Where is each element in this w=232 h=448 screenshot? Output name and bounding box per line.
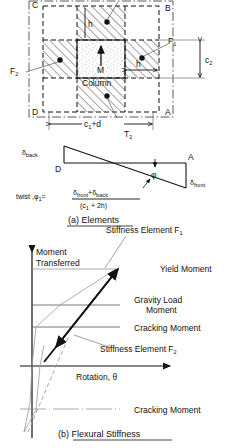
element-f2-label: F2 (10, 66, 18, 77)
element-dot-bottom (104, 93, 109, 98)
h-label-top: h (88, 19, 93, 29)
stiffness-element-f2-branch (56, 269, 118, 347)
element-dot-top (104, 19, 109, 24)
twist-equation: twist ,φ1= δfront+δback (c1 + 2h) (16, 189, 140, 211)
figure-root: C B D A M Column h h F1 F2 T2 (0, 0, 232, 448)
element-top-hatch (77, 6, 125, 40)
h-label-right: h (136, 59, 141, 69)
plan-corner-b: B (165, 3, 171, 13)
annotation-gravity-line1: Gravity Load (134, 295, 182, 305)
column-label: Column (82, 78, 112, 88)
twist-point-d: D (55, 164, 61, 174)
plan-corner-c: C (32, 0, 38, 10)
twist-point-a: A (188, 152, 194, 162)
twist-diagram: δback D A δfront φ twist ,φ1= δfront+δba… (16, 146, 206, 226)
caption-a: (a) Elements (68, 215, 120, 225)
element-f1-label: F1 (168, 36, 176, 47)
phi-label: φ (151, 170, 157, 180)
annotation-stiffness-f1: Stiffness Element F1 (106, 225, 183, 236)
y-axis-label-line1: Moment (36, 247, 67, 257)
dim-c1d: c1+d (49, 112, 153, 130)
element-dot-f1 (139, 55, 144, 60)
dim-c1d-label: c1+d (84, 119, 101, 130)
annotation-yield-moment: Yield Moment (160, 264, 212, 274)
x-axis-label: Rotation, θ (76, 372, 117, 382)
caption-b: (b) Flexural Stiffness (58, 429, 141, 439)
delta-front-label: δfront (190, 179, 206, 188)
annotation-stiffness-f2: Stiffness Element F2 (100, 344, 177, 355)
twist-eq-lead: twist ,φ1= (16, 193, 46, 202)
figure-svg: C B D A M Column h h F1 F2 T2 (0, 0, 232, 448)
twist-eq-numerator: δfront+δback (73, 189, 108, 198)
annotation-cracking-upper: Cracking Moment (134, 323, 201, 333)
y-axis-label-line2: Transferred (36, 258, 80, 268)
moment-label: M (97, 65, 104, 75)
twist-eq-denominator: (c1 + 2h) (80, 202, 107, 211)
element-dot-f2 (57, 57, 62, 62)
dim-c2-label: c2 (205, 55, 212, 66)
leader-stiffness-f1 (105, 236, 126, 268)
annotation-cracking-lower: Cracking Moment (134, 405, 201, 415)
delta-back-label: δback (22, 149, 38, 158)
phi-leader (143, 179, 150, 188)
plan-corner-a: A (165, 107, 171, 117)
plan-corner-d: D (32, 107, 38, 117)
dim-c2: c2 (159, 40, 212, 78)
plan-view: C B D A M Column h h F1 F2 T2 (10, 0, 212, 140)
unloading-path (28, 338, 68, 432)
flexural-stiffness-chart: Moment Transferred Rotation, θ Stiffness… (20, 225, 212, 440)
deflection-profile (64, 146, 186, 188)
annotation-gravity-line2: Moment (146, 305, 177, 315)
torsion-label: T2 (124, 129, 132, 140)
